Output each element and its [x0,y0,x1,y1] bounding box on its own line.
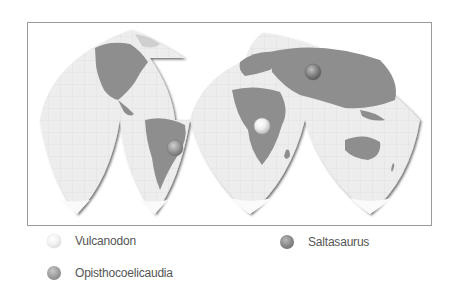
saltasaurus-marker[interactable] [305,64,321,80]
mid-sphere-icon [47,266,61,280]
dark-sphere-icon [280,235,294,249]
legend-item-vulcanodon: Vulcanodon [47,234,136,248]
legend-item-opisthocoelicaudia: Opisthocoelicaudia [47,266,173,280]
legend-label: Opisthocoelicaudia [75,266,173,280]
legend-label: Vulcanodon [75,234,136,248]
legend-item-saltasaurus: Saltasaurus [280,235,369,249]
legend-label: Saltasaurus [308,235,369,249]
opisthocoelicaudia-marker[interactable] [167,140,183,156]
vulcanodon-marker[interactable] [254,118,270,134]
light-sphere-icon [47,234,61,248]
antarctica [60,198,392,214]
